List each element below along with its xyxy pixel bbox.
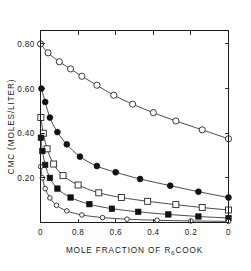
- data-point: [199, 127, 205, 133]
- data-point: [150, 110, 156, 116]
- data-point: [51, 161, 57, 167]
- data-point: [100, 215, 105, 220]
- data-point: [130, 101, 136, 107]
- y-tick-label: 0.80: [17, 40, 34, 49]
- data-point: [173, 202, 179, 208]
- data-point: [55, 129, 61, 135]
- data-point: [166, 212, 171, 217]
- markers-layer: [37, 41, 231, 224]
- data-point: [55, 186, 60, 191]
- data-point: [42, 99, 48, 105]
- x-tick-label: 0.4: [147, 228, 159, 237]
- data-point: [80, 213, 85, 218]
- data-point: [94, 163, 100, 169]
- x-tick-label: 0: [38, 228, 43, 237]
- data-point: [54, 203, 59, 208]
- data-point: [68, 195, 73, 200]
- data-point: [196, 214, 201, 219]
- data-point: [65, 209, 70, 214]
- data-point: [136, 209, 141, 214]
- data-point: [79, 73, 85, 79]
- data-point: [167, 183, 173, 189]
- data-point: [111, 92, 117, 98]
- y-tick-label: 0.40: [17, 129, 34, 138]
- curve-series-1-open-circle: [41, 44, 229, 139]
- data-point: [109, 206, 114, 211]
- data-point: [45, 50, 51, 56]
- y-tick-label: 0.20: [17, 174, 34, 183]
- data-point: [118, 195, 124, 201]
- chart-plot-area: 00.80.60.40.200.200.400.600.80MOLE FRACT…: [0, 0, 251, 271]
- data-point: [75, 182, 81, 188]
- data-point: [48, 196, 53, 201]
- data-point: [47, 175, 52, 180]
- data-point: [137, 176, 143, 182]
- data-point: [60, 173, 66, 179]
- markers-series-5-small-open-circle: [38, 164, 230, 223]
- y-tick-label: 0.60: [17, 85, 34, 94]
- chart-figure: 00.80.60.40.200.200.400.600.80MOLE FRACT…: [0, 0, 251, 271]
- x-tick-label: 0.6: [110, 228, 122, 237]
- data-point: [113, 169, 119, 175]
- data-point: [77, 154, 83, 160]
- x-axis-title: MOLE FRACTION OF R6COOK: [66, 246, 203, 256]
- data-point: [94, 82, 100, 88]
- data-point: [47, 115, 53, 121]
- data-point: [199, 205, 205, 211]
- data-point: [96, 190, 102, 196]
- data-point: [64, 141, 70, 147]
- x-tick-label: 0: [226, 228, 231, 237]
- data-point: [173, 118, 179, 124]
- markers-series-1-open-circle: [37, 41, 231, 142]
- data-point: [56, 59, 62, 65]
- data-point: [155, 218, 160, 223]
- data-point: [67, 66, 73, 72]
- data-point: [145, 198, 151, 204]
- data-point: [87, 201, 92, 206]
- y-axis-title: CMC (MOLES/LITER): [7, 79, 16, 175]
- x-tick-label: 0.2: [185, 228, 197, 237]
- x-tick-label: 0.8: [72, 228, 84, 237]
- data-point: [125, 217, 130, 222]
- data-point: [43, 186, 48, 191]
- data-point: [196, 189, 202, 195]
